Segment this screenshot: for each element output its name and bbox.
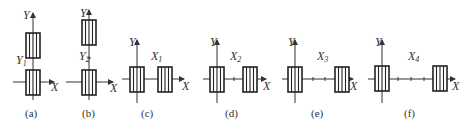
sensor-block-right (433, 66, 447, 91)
panel-a: Y X Y1 (a) (13, 8, 59, 120)
sensor-block-top (82, 20, 96, 45)
sensor-block-left (288, 67, 302, 92)
x-axis-label: X (50, 80, 59, 94)
sensor-block-right (335, 67, 349, 92)
sensor-block-left (375, 66, 389, 91)
sensor-block-top (26, 33, 40, 58)
diagram-canvas: Y X Y1 (a) Y X Y2 (b) Y X X1 (c) Y X X2 (0, 0, 466, 131)
offset-label: X2 (229, 49, 241, 64)
sensor-block-bottom (82, 70, 96, 95)
caption-b: (b) (82, 107, 95, 120)
x-axis-label: X (109, 81, 118, 95)
caption-c: (c) (141, 107, 154, 120)
offset-label: X1 (150, 49, 162, 64)
caption-e: (e) (311, 107, 324, 120)
y-axis-label: Y (80, 6, 88, 20)
panel-b: Y X Y2 (b) (66, 6, 118, 120)
offset-label: X4 (407, 49, 419, 64)
y-axis-label: Y (129, 35, 137, 49)
offset-label: Y1 (16, 53, 27, 68)
caption-d: (d) (225, 107, 238, 120)
caption-f: (f) (404, 107, 415, 120)
sensor-block-right (158, 67, 172, 92)
panel-e: Y X X3 (e) (282, 35, 358, 120)
x-axis-label: X (181, 79, 190, 93)
y-axis-label: Y (23, 8, 31, 22)
sensor-block-bottom (26, 70, 40, 95)
panel-c: Y X X1 (c) (122, 35, 190, 120)
sensor-block-left (130, 67, 144, 92)
offset-label: X3 (316, 49, 328, 64)
sensor-block-right (243, 67, 257, 92)
x-axis-label: X (349, 79, 358, 93)
offset-label: Y2 (79, 49, 90, 64)
caption-a: (a) (25, 107, 38, 120)
panel-f: Y X X4 (f) (368, 35, 460, 120)
sensor-block-left (210, 67, 224, 92)
panel-d: Y X X2 (d) (203, 35, 271, 120)
x-axis-label: X (262, 79, 271, 93)
x-axis-label: X (451, 79, 460, 93)
